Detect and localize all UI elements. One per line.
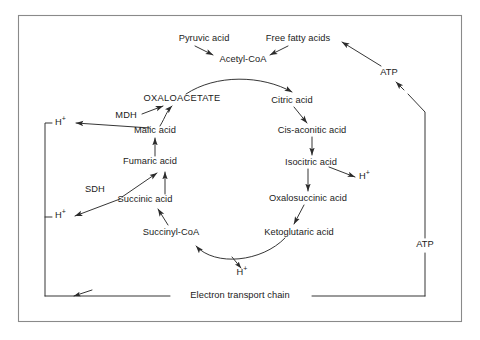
node-atp-top: ATP (380, 68, 398, 77)
diagram-canvas: Pyruvic acid Free fatty acids Acetyl-CoA… (0, 0, 480, 340)
node-acetyl-coa: Acetyl-CoA (220, 55, 267, 64)
node-malic-acid: Malic acid (134, 126, 176, 135)
electron-transport-arrow (74, 290, 92, 296)
node-mdh: MDH (115, 111, 136, 120)
node-hplus-isocitric: H+ (359, 172, 370, 181)
node-oxalosuccinic-acid: Oxalosuccinic acid (269, 194, 347, 203)
edge-atp-diagonal (396, 82, 404, 90)
node-sdh: SDH (85, 185, 105, 194)
node-electron-transport-chain: Electron transport chain (190, 291, 289, 300)
edge-atp-right-up (408, 94, 425, 238)
node-hplus-upper-left: H+ (55, 118, 66, 127)
edge-oxalosuccinic-ketoglutaric (294, 205, 304, 224)
node-oxaloacetate: OXALOACETATE (143, 94, 220, 103)
edge-fattyacids-acetyl (270, 46, 288, 55)
edge-succinylcoa-succinic (158, 209, 168, 225)
node-isocitric-acid: Isocitric acid (285, 158, 337, 167)
diagram-lines (0, 0, 480, 340)
edge-acetyl-citric (186, 79, 292, 94)
edge-atp-top-to-fattyacids (342, 42, 381, 66)
node-hplus-lower-left: H+ (55, 211, 66, 220)
hplus-bracket (45, 123, 52, 296)
node-ketoglutaric-acid: Ketoglutaric acid (264, 228, 334, 237)
node-fumaric-acid: Fumaric acid (123, 157, 177, 166)
node-citric-acid: Citric acid (271, 96, 312, 105)
edge-pyruvic-acetyl (195, 46, 213, 55)
edge-malic-oxaloacetate (160, 106, 172, 126)
edge-isocitric-hplus (329, 167, 355, 177)
edge-ketoglutaric-succinylcoa (196, 238, 285, 259)
edge-mdh-oxaloacetate (142, 106, 163, 114)
node-succinyl-coa: Succinyl-CoA (143, 228, 199, 237)
node-pyruvic-acid: Pyruvic acid (179, 34, 230, 43)
edge-succinic-hplus (75, 199, 120, 216)
node-cis-aconitic-acid: Cis-aconitic acid (278, 126, 347, 135)
edge-citric-cisaconitic (294, 107, 307, 123)
node-atp-right: ATP (416, 240, 434, 249)
node-succinic-acid: Succinic acid (118, 195, 173, 204)
node-hplus-bottom: H+ (237, 268, 248, 277)
node-free-fatty-acids: Free fatty acids (266, 34, 330, 43)
